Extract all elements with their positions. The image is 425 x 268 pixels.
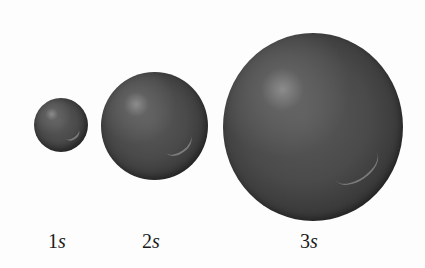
- label-1s: 1s: [48, 230, 66, 253]
- label-3s-letter: s: [310, 230, 318, 252]
- label-1s-letter: s: [58, 230, 66, 252]
- specular-glint: [62, 124, 82, 143]
- label-3s-number: 3: [300, 230, 310, 252]
- sphere-3s: [223, 33, 403, 221]
- label-2s: 2s: [142, 230, 160, 253]
- label-2s-letter: s: [152, 230, 160, 252]
- sphere-1s: [34, 98, 88, 152]
- label-3s: 3s: [300, 230, 318, 253]
- orbital-size-diagram: 1s 2s 3s: [0, 0, 425, 268]
- sphere-2s: [101, 72, 208, 180]
- label-2s-number: 2: [142, 230, 152, 252]
- specular-glint: [160, 127, 196, 161]
- label-1s-number: 1: [48, 230, 58, 252]
- specular-glint: [327, 139, 385, 192]
